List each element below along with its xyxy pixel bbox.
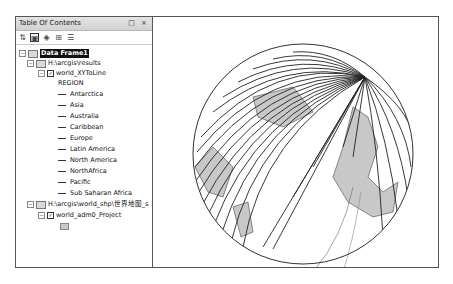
collapse-icon[interactable]: − [38, 70, 45, 77]
line-symbol-icon [58, 116, 66, 117]
legend-label: Latin America [70, 145, 115, 154]
line-symbol-icon [58, 105, 66, 106]
list-by-visibility-icon[interactable]: ◈ [42, 33, 51, 42]
collapse-icon[interactable]: − [38, 212, 45, 219]
collapse-icon[interactable]: − [27, 201, 34, 208]
line-symbol-icon [58, 160, 66, 161]
arcmap-window: Table Of Contents □ × ⇅ ▣ ◈ ⊞ ☰ − Data F… [15, 16, 439, 268]
toc-toolbar: ⇅ ▣ ◈ ⊞ ☰ [16, 31, 152, 45]
legend-item[interactable]: Latin America [58, 145, 115, 154]
line-symbol-icon [58, 149, 66, 150]
tree-row-layer-adm0[interactable]: − ✓ world_adm0_Project [38, 211, 121, 220]
legend-item[interactable]: Sub Saharan Africa [58, 189, 132, 198]
list-by-drawing-order-icon[interactable]: ⇅ [18, 33, 27, 42]
map-display[interactable] [153, 17, 438, 267]
legend-item[interactable]: North America [58, 156, 117, 165]
window-controls[interactable]: □ × [128, 17, 149, 30]
tree-row-folder-results[interactable]: − H:\arcgis\results [27, 59, 101, 68]
list-by-source-icon[interactable]: ▣ [30, 33, 39, 42]
layer-tree: − Data Frame1 − H:\arcgis\results − ✓ wo… [16, 45, 152, 267]
options-icon[interactable]: ☰ [66, 33, 75, 42]
legend-label: Pacific [70, 178, 91, 187]
folder-label[interactable]: H:\arcgis\results [48, 59, 101, 68]
globe-map [153, 17, 440, 267]
layer-label[interactable]: world_adm0_Project [56, 211, 121, 220]
field-header-label: REGION [58, 79, 84, 88]
legend-item[interactable]: Antarctica [58, 90, 103, 99]
legend-item[interactable]: Australia [58, 112, 99, 121]
legend-label: Antarctica [70, 90, 103, 99]
collapse-icon[interactable]: − [19, 50, 26, 57]
tree-row-folder-world-shp[interactable]: − H:\arcgis\world_shp\世界地图_s [27, 200, 148, 209]
tree-row-data-frame[interactable]: − Data Frame1 [19, 49, 89, 58]
polygon-swatch-icon [60, 223, 69, 230]
line-symbol-icon [58, 193, 66, 194]
legend-label: North America [70, 156, 117, 165]
legend-item[interactable]: Caribbean [58, 123, 103, 132]
legend-item[interactable]: NorthAfrica [58, 167, 107, 176]
toc-title-bar: Table Of Contents □ × [16, 17, 152, 31]
legend-item[interactable]: Asia [58, 101, 84, 110]
table-of-contents-panel: Table Of Contents □ × ⇅ ▣ ◈ ⊞ ☰ − Data F… [16, 17, 153, 267]
folder-icon [36, 201, 46, 209]
line-symbol-icon [58, 127, 66, 128]
folder-icon [36, 60, 46, 68]
legend-label: Europe [70, 134, 93, 143]
legend-label: Australia [70, 112, 99, 121]
list-by-selection-icon[interactable]: ⊞ [54, 33, 63, 42]
collapse-icon[interactable]: − [27, 60, 34, 67]
tree-row-layer-xytoline[interactable]: − ✓ world_XYToLine [38, 69, 106, 78]
layer-visibility-checkbox[interactable]: ✓ [47, 70, 54, 77]
legend-label: NorthAfrica [70, 167, 107, 176]
polygon-symbol[interactable] [60, 222, 69, 231]
folder-label[interactable]: H:\arcgis\world_shp\世界地图_s [48, 200, 148, 209]
layer-label[interactable]: world_XYToLine [56, 69, 106, 78]
field-header: REGION [58, 79, 84, 88]
xy-to-line-layer [195, 52, 413, 249]
toc-title: Table Of Contents [19, 19, 81, 27]
layer-visibility-checkbox[interactable]: ✓ [47, 212, 54, 219]
data-frame-label[interactable]: Data Frame1 [40, 49, 89, 58]
legend-item[interactable]: Europe [58, 134, 93, 143]
legend-label: Asia [70, 101, 84, 110]
legend-label: Sub Saharan Africa [70, 189, 132, 198]
line-symbol-icon [58, 171, 66, 172]
line-symbol-icon [58, 138, 66, 139]
data-frame-icon [28, 50, 38, 58]
legend-item[interactable]: Pacific [58, 178, 91, 187]
line-symbol-icon [58, 94, 66, 95]
line-symbol-icon [58, 182, 66, 183]
legend-label: Caribbean [70, 123, 103, 132]
land-layer [195, 87, 415, 257]
